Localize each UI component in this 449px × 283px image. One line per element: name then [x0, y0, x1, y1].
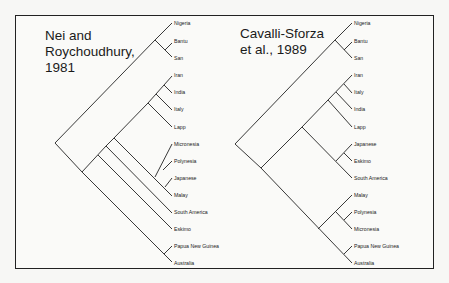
left-tree-branches	[55, 23, 172, 262]
leaf-label: Italy	[354, 89, 364, 95]
leaf-label: Papua New Guinea	[354, 243, 399, 249]
leaf-label: South America	[354, 175, 388, 181]
phylogenetic-trees	[0, 0, 449, 283]
leaf-label: Bantu	[354, 38, 368, 44]
right-tree-branches	[235, 23, 352, 263]
leaf-label: India	[174, 89, 185, 95]
leaf-label: San	[174, 55, 183, 61]
leaf-label: Lapp	[174, 124, 186, 130]
leaf-label: Australia	[174, 260, 194, 266]
leaf-label: Micronesia	[354, 226, 379, 232]
leaf-label: Australia	[354, 260, 374, 266]
leaf-label: San	[354, 55, 363, 61]
leaf-label: Nigeria	[354, 20, 370, 26]
leaf-label: Polynesia	[174, 158, 197, 164]
leaf-label: Eskimo	[354, 158, 371, 164]
leaf-label: Bantu	[174, 38, 188, 44]
leaf-label: Malay	[174, 192, 188, 198]
leaf-label: Nigeria	[174, 20, 190, 26]
leaf-label: Polynesia	[354, 209, 377, 215]
leaf-label: Iran	[174, 72, 183, 78]
leaf-label: Malay	[354, 192, 368, 198]
leaf-label: Italy	[174, 106, 184, 112]
leaf-label: Papua New Guinea	[174, 243, 219, 249]
leaf-label: Iran	[354, 72, 363, 78]
leaf-label: Japanese	[174, 175, 197, 181]
leaf-label: Micronesia	[174, 141, 199, 147]
leaf-label: Japanese	[354, 141, 377, 147]
leaf-label: India	[354, 106, 365, 112]
leaf-label: Lapp	[354, 124, 366, 130]
leaf-label: South America	[174, 209, 208, 215]
leaf-label: Eskimo	[174, 226, 191, 232]
